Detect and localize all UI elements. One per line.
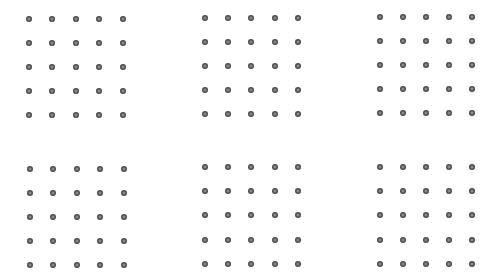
dot-icon	[120, 112, 126, 118]
dot-icon	[73, 40, 79, 46]
dot-icon	[272, 164, 278, 170]
dot-icon	[400, 62, 406, 68]
dot-icon	[400, 14, 406, 20]
dot-icon	[400, 86, 406, 92]
dot-icon	[27, 214, 33, 220]
dot-icon	[74, 166, 80, 172]
dot-icon	[96, 16, 102, 22]
dot-icon	[202, 237, 208, 243]
dot-icon	[27, 262, 33, 268]
dot-icon	[272, 212, 278, 218]
dot-icon	[248, 164, 254, 170]
dot-icon	[377, 237, 383, 243]
dot-icon	[446, 212, 452, 218]
dot-icon	[400, 38, 406, 44]
dot-icon	[295, 261, 301, 267]
dot-icon	[423, 261, 429, 267]
dot-icon	[469, 62, 475, 68]
dot-icon	[295, 237, 301, 243]
dot-icon	[121, 166, 127, 172]
dot-icon	[96, 88, 102, 94]
dot-icon	[74, 190, 80, 196]
dot-icon	[120, 16, 126, 22]
dot-icon	[73, 88, 79, 94]
dot-icon	[50, 190, 56, 196]
dot-icon	[97, 190, 103, 196]
dot-icon	[27, 238, 33, 244]
dot-icon	[50, 262, 56, 268]
dot-icon	[469, 110, 475, 116]
dot-icon	[96, 40, 102, 46]
dot-icon	[423, 14, 429, 20]
dot-icon	[469, 237, 475, 243]
dot-icon	[202, 15, 208, 21]
dot-icon	[423, 188, 429, 194]
dot-icon	[400, 164, 406, 170]
dot-icon	[423, 164, 429, 170]
dot-icon	[225, 237, 231, 243]
dot-icon	[469, 188, 475, 194]
dot-icon	[27, 166, 33, 172]
dot-icon	[248, 39, 254, 45]
dot-icon	[295, 212, 301, 218]
dot-icon	[26, 112, 32, 118]
dot-icon	[202, 63, 208, 69]
dot-icon	[446, 86, 452, 92]
dot-icon	[248, 87, 254, 93]
dot-icon	[446, 110, 452, 116]
dot-icon	[469, 14, 475, 20]
dot-icon	[248, 237, 254, 243]
dot-icon	[272, 63, 278, 69]
dot-icon	[27, 190, 33, 196]
dot-icon	[377, 188, 383, 194]
dot-icon	[225, 111, 231, 117]
dot-icon	[50, 238, 56, 244]
dot-icon	[121, 190, 127, 196]
dot-icon	[225, 261, 231, 267]
dot-icon	[377, 212, 383, 218]
dot-icon	[97, 262, 103, 268]
dot-icon	[272, 261, 278, 267]
dot-icon	[272, 39, 278, 45]
dot-icon	[50, 166, 56, 172]
dot-icon	[73, 112, 79, 118]
dot-icon	[377, 86, 383, 92]
dot-icon	[26, 40, 32, 46]
dot-icon	[73, 64, 79, 70]
dot-icon	[400, 237, 406, 243]
dot-icon	[377, 164, 383, 170]
dot-icon	[446, 164, 452, 170]
dot-icon	[248, 261, 254, 267]
dot-icon	[96, 64, 102, 70]
dot-icon	[295, 87, 301, 93]
dot-icon	[120, 88, 126, 94]
dot-icon	[272, 188, 278, 194]
dot-icon	[225, 39, 231, 45]
dot-icon	[469, 212, 475, 218]
dot-icon	[26, 64, 32, 70]
dot-icon	[202, 111, 208, 117]
dot-icon	[377, 261, 383, 267]
dot-icon	[97, 238, 103, 244]
dot-icon	[120, 64, 126, 70]
dot-icon	[26, 16, 32, 22]
dot-icon	[121, 214, 127, 220]
dot-icon	[423, 86, 429, 92]
dot-icon	[248, 188, 254, 194]
dot-icon	[295, 164, 301, 170]
dot-icon	[377, 14, 383, 20]
dot-icon	[400, 110, 406, 116]
dot-icon	[74, 214, 80, 220]
dot-icon	[97, 214, 103, 220]
dot-icon	[423, 237, 429, 243]
dot-icon	[295, 188, 301, 194]
dot-icon	[225, 188, 231, 194]
dot-icon	[423, 62, 429, 68]
dot-icon	[446, 62, 452, 68]
dot-icon	[202, 164, 208, 170]
dot-icon	[272, 111, 278, 117]
dot-icon	[446, 14, 452, 20]
dot-icon	[248, 212, 254, 218]
dot-icon	[26, 88, 32, 94]
dot-icon	[225, 15, 231, 21]
